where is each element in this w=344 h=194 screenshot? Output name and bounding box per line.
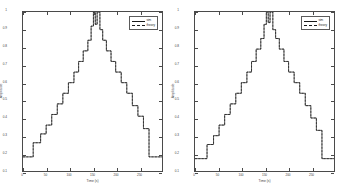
- x-axis-tick: [313, 168, 314, 171]
- legend-line-sample-icon: [304, 24, 317, 27]
- plot-axes-left: sim theory: [22, 11, 163, 172]
- y-axis-tick: [159, 84, 162, 85]
- y-axis-tick-label: 1: [5, 9, 7, 12]
- x-axis-tick: [242, 12, 243, 15]
- y-axis-tick-label: 0.1: [3, 170, 7, 173]
- legend-line-sample-icon: [132, 19, 145, 22]
- y-axis-tick: [23, 119, 26, 120]
- legend-line-sample-icon: [132, 24, 145, 27]
- y-axis-tick-label: 0.4: [3, 117, 7, 120]
- x-axis-tick: [23, 168, 24, 171]
- y-axis-tick: [331, 30, 334, 31]
- legend-label: theory: [146, 24, 155, 27]
- y-axis-tick: [331, 48, 334, 49]
- x-axis-label-right: Time (s): [194, 180, 335, 183]
- x-axis-tick: [141, 168, 142, 171]
- x-axis-tick: [117, 12, 118, 15]
- x-axis-tick-label: 100: [238, 174, 243, 177]
- x-axis-tick: [219, 168, 220, 171]
- legend-label: sim: [146, 19, 151, 22]
- x-axis-tick: [47, 12, 48, 15]
- y-axis-tick: [23, 30, 26, 31]
- y-axis-tick-label: 1: [177, 9, 179, 12]
- y-axis-tick: [23, 12, 26, 13]
- y-axis-tick-label: 0.2: [3, 153, 7, 156]
- y-axis-tick: [195, 119, 198, 120]
- y-axis-tick: [159, 48, 162, 49]
- y-axis-tick: [331, 66, 334, 67]
- y-axis-tick-label: 0.4: [175, 117, 179, 120]
- x-axis-tick: [141, 12, 142, 15]
- y-axis-tick: [331, 101, 334, 102]
- y-axis-tick: [159, 12, 162, 13]
- x-axis-tick: [313, 12, 314, 15]
- x-axis-tick: [94, 12, 95, 15]
- x-axis-tick-label: 250: [309, 174, 314, 177]
- x-axis-tick-label: 50: [216, 174, 219, 177]
- legend-right[interactable]: sim theory: [301, 16, 330, 30]
- y-axis-tick: [195, 101, 198, 102]
- y-axis-tick: [195, 137, 198, 138]
- x-axis-label-left: Time (s): [22, 180, 163, 183]
- x-axis-tick: [289, 168, 290, 171]
- x-axis-tick: [242, 168, 243, 171]
- y-axis-tick: [23, 155, 26, 156]
- x-axis-tick-label: 200: [285, 174, 290, 177]
- y-axis-tick: [195, 84, 198, 85]
- y-axis-tick: [331, 12, 334, 13]
- y-axis-tick: [159, 155, 162, 156]
- y-axis-tick: [331, 137, 334, 138]
- y-axis-tick: [195, 48, 198, 49]
- y-axis-tick: [195, 12, 198, 13]
- y-axis-tick-label: 0.5: [175, 99, 179, 102]
- y-axis-tick: [23, 66, 26, 67]
- legend-line-sample-icon: [304, 19, 317, 22]
- y-axis-tick: [195, 30, 198, 31]
- legend-label: theory: [318, 24, 327, 27]
- y-axis-tick-label: 0.1: [175, 170, 179, 173]
- x-axis-tick-label: 150: [262, 174, 267, 177]
- x-axis-tick-label: 150: [90, 174, 95, 177]
- y-axis-tick-label: 0.7: [3, 63, 7, 66]
- x-axis-tick: [266, 12, 267, 15]
- y-axis-tick: [331, 155, 334, 156]
- left-panel: Amplitude sim theory Time (s) 0501001502…: [0, 0, 172, 194]
- x-axis-tick: [70, 12, 71, 15]
- x-axis-tick: [70, 168, 71, 171]
- right-panel: Amplitude sim theory Time (s) 0501001502…: [172, 0, 344, 194]
- y-axis-tick: [23, 173, 26, 174]
- legend-entry: theory: [132, 23, 155, 28]
- y-axis-tick-label: 0.8: [3, 45, 7, 48]
- legend-entry: theory: [304, 23, 327, 28]
- y-axis-tick: [159, 137, 162, 138]
- series-line-sim-right: [195, 12, 334, 159]
- x-axis-tick: [117, 168, 118, 171]
- legend-label: sim: [318, 19, 323, 22]
- x-axis-tick: [219, 12, 220, 15]
- y-axis-label-right: Amplitude: [172, 84, 175, 99]
- x-axis-tick: [266, 168, 267, 171]
- y-axis-tick: [23, 48, 26, 49]
- x-axis-tick-label: 250: [137, 174, 142, 177]
- y-axis-tick: [159, 101, 162, 102]
- y-axis-tick-label: 0.9: [3, 27, 7, 30]
- legend-left[interactable]: sim theory: [129, 16, 158, 30]
- x-axis-tick: [94, 168, 95, 171]
- plot-axes-right: sim theory: [194, 11, 335, 172]
- y-axis-tick: [195, 155, 198, 156]
- y-axis-tick-label: 0.6: [3, 81, 7, 84]
- series-line-sim-left: [23, 12, 162, 157]
- y-axis-tick-label: 0.2: [175, 153, 179, 156]
- x-axis-tick: [289, 12, 290, 15]
- y-axis-tick: [23, 137, 26, 138]
- y-axis-tick: [331, 119, 334, 120]
- series-line-theory-right: [195, 12, 334, 159]
- y-axis-tick: [159, 30, 162, 31]
- figure-canvas: Amplitude sim theory Time (s) 0501001502…: [0, 0, 344, 194]
- y-axis-tick: [159, 173, 162, 174]
- x-axis-tick: [195, 168, 196, 171]
- x-axis-tick-label: 50: [44, 174, 47, 177]
- x-axis-tick-label: 200: [113, 174, 118, 177]
- y-axis-tick: [159, 66, 162, 67]
- x-axis-tick: [47, 168, 48, 171]
